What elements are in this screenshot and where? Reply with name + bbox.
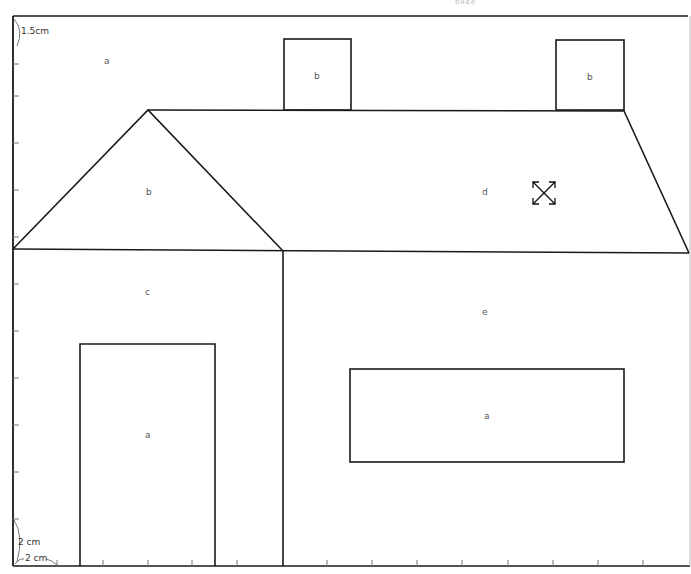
house bbox=[13, 39, 689, 566]
bottom-ruler bbox=[57, 560, 643, 566]
region-label-chimney-left: b bbox=[314, 71, 320, 81]
move-resize-icon bbox=[533, 182, 555, 204]
dimension-label-corner-horizontal: 2 cm bbox=[25, 553, 47, 563]
region-label-gable-wall: c bbox=[145, 287, 150, 297]
region-label-gable: b bbox=[146, 187, 152, 197]
dimension-label-vertical: 1.5cm bbox=[21, 26, 49, 36]
region-label-chimney-right: b bbox=[587, 72, 593, 82]
gable-outline bbox=[13, 110, 283, 251]
door bbox=[80, 344, 215, 566]
roof-outline bbox=[148, 110, 689, 253]
house-diagram-canvas: 1.5cm 2 cm 2 cm a b b b d c e a a bbox=[0, 0, 691, 574]
region-label-door: a bbox=[145, 430, 151, 440]
dimension-annotations bbox=[14, 19, 57, 565]
region-label-main-wall: e bbox=[482, 307, 488, 317]
region-label-roof: d bbox=[482, 187, 488, 197]
dimension-label-corner-vertical: 2 cm bbox=[18, 537, 40, 547]
region-label-sky: a bbox=[104, 56, 110, 66]
region-label-window: a bbox=[484, 411, 490, 421]
eave-line bbox=[13, 249, 689, 253]
